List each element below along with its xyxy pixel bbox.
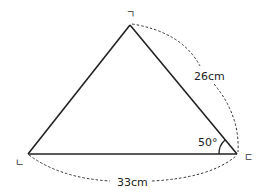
- dashed-arc-right-upper: [132, 24, 200, 66]
- triangle-edges: [28, 25, 237, 154]
- triangle-diagram: 26cm 50° 33cm ㄱ ㄴ ㄷ: [0, 0, 262, 194]
- dashed-arc-bottom-right: [152, 156, 236, 181]
- edge-top-bottomleft: [28, 25, 130, 154]
- angle-arc-50: [219, 140, 225, 154]
- dashed-arc-bottom-left: [29, 155, 110, 181]
- side-label-33cm: 33cm: [117, 176, 148, 189]
- vertex-label-bottom-right: ㄷ: [244, 152, 253, 163]
- side-label-26cm: 26cm: [194, 70, 225, 83]
- vertex-label-bottom-left: ㄴ: [15, 157, 24, 168]
- edge-top-bottomright: [130, 25, 237, 154]
- angle-label-50: 50°: [198, 136, 218, 149]
- vertex-label-top: ㄱ: [126, 9, 135, 20]
- measurement-arcs: [29, 24, 238, 181]
